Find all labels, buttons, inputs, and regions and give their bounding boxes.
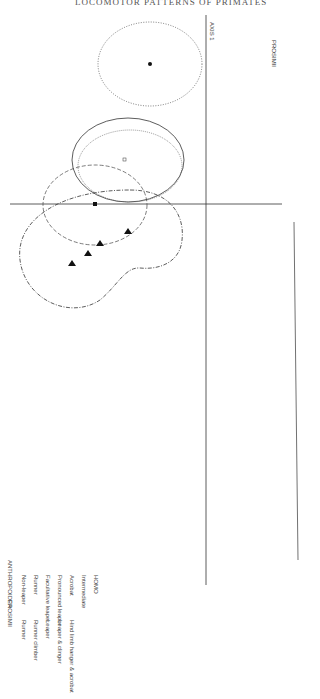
legend-item-anthro-runner: Runner (33, 575, 39, 595)
point-leaper-clinger-marker (93, 202, 97, 206)
legend-item-non-leaper: Non-leaper (21, 575, 27, 605)
legend-item-leaper-clinger: Leaper & clinger (57, 620, 63, 664)
point-11-marker (84, 250, 92, 256)
acrobat-region (20, 190, 183, 308)
runner-ellipse (72, 118, 184, 202)
legend-item-hind-limb-hanger: Hind limb hanger & acrobat (69, 620, 75, 693)
legend-item-leaper: Leaper (45, 620, 51, 639)
separator-line (294, 222, 298, 560)
point-13-marker (123, 158, 126, 161)
legend-item-facultative-leaper: Facultative leaper (45, 575, 51, 622)
legend-item-pronounced-leaper: Pronounced leaper (57, 575, 63, 626)
chart-canvas: LOCOMOTOR PATTERNS OF PRIMATES AXIS 1 PR… (0, 0, 320, 699)
legend-item-intermediate: Intermediate (81, 575, 87, 609)
legend-item-runner: Runner (21, 620, 27, 640)
page-header: LOCOMOTOR PATTERNS OF PRIMATES (75, 0, 267, 7)
legend-item-runner-climber: Runner climber (33, 620, 39, 661)
leaper-ellipse (78, 130, 182, 202)
point-3-marker (148, 62, 152, 66)
axis1-label: AXIS 1 (209, 22, 215, 41)
prosimii-label: PROSIMII (271, 40, 277, 67)
point-10-marker (96, 240, 104, 246)
point-15-marker (68, 260, 76, 266)
legend-item-homo: HOMO (93, 575, 99, 594)
point-14-marker (124, 228, 132, 234)
legend-anthropoidea-title: ANTHROPOIDEA (7, 560, 13, 608)
legend: PROSIMII ANTHROPOIDEA Runner Runner clim… (7, 560, 99, 693)
legend-item-acrobat: Acrobat (69, 575, 75, 596)
